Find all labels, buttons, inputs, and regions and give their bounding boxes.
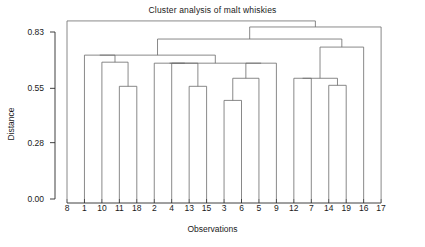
dendrogram-branch bbox=[102, 62, 128, 199]
dendrogram-branch bbox=[154, 63, 185, 199]
dendrogram-branch bbox=[189, 86, 206, 199]
x-tick-label: 8 bbox=[65, 203, 70, 213]
dendrogram-branch bbox=[320, 47, 364, 199]
x-tick-label: 13 bbox=[184, 203, 193, 213]
x-tick-label: 14 bbox=[324, 203, 333, 213]
dendrogram-branch bbox=[233, 78, 259, 199]
dendrogram-branch bbox=[67, 21, 315, 199]
y-tick-label: 0.28 bbox=[14, 138, 44, 148]
dendrogram-branch bbox=[84, 55, 115, 199]
dendrogram-branch bbox=[303, 78, 338, 85]
y-tick-label: 0.00 bbox=[14, 194, 44, 204]
x-tick-label: 6 bbox=[239, 203, 244, 213]
x-tick-label: 10 bbox=[97, 203, 106, 213]
dendrogram-branch bbox=[224, 100, 241, 199]
dendrogram-branch bbox=[294, 78, 311, 199]
x-tick-label: 4 bbox=[169, 203, 174, 213]
dendrogram-branch bbox=[250, 27, 381, 199]
x-tick-label: 17 bbox=[376, 203, 385, 213]
x-tick-label: 2 bbox=[152, 203, 157, 213]
dendrogram-branches bbox=[67, 21, 381, 199]
y-tick-label: 0.83 bbox=[14, 27, 44, 37]
y-tick-label: 0.55 bbox=[14, 83, 44, 93]
dendrogram-branch bbox=[329, 85, 346, 199]
x-tick-label: 9 bbox=[274, 203, 279, 213]
x-tick-label: 7 bbox=[309, 203, 314, 213]
x-tick-label: 5 bbox=[257, 203, 262, 213]
x-tick-label: 1 bbox=[82, 203, 87, 213]
dendrogram-branch bbox=[172, 63, 198, 199]
dendrogram-branch bbox=[158, 39, 342, 55]
dendrogram-plot: Cluster analysis of malt whiskies Distan… bbox=[0, 0, 425, 247]
x-tick-label: 18 bbox=[132, 203, 141, 213]
dendrogram-branch bbox=[119, 86, 136, 199]
x-tick-label: 11 bbox=[115, 203, 124, 213]
x-tick-label: 16 bbox=[359, 203, 368, 213]
dendrogram-branch bbox=[246, 63, 277, 199]
x-tick-label: 19 bbox=[341, 203, 350, 213]
x-tick-label: 15 bbox=[202, 203, 211, 213]
x-tick-label: 12 bbox=[289, 203, 298, 213]
x-tick-label: 3 bbox=[222, 203, 227, 213]
